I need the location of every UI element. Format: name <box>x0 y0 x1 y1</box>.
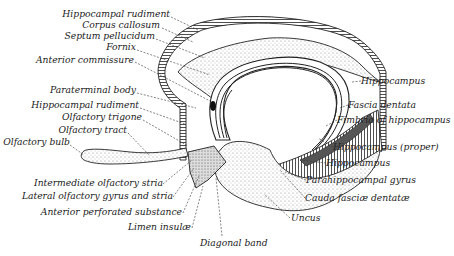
label-diagonal-band: Diagonal band <box>199 237 268 248</box>
label-anterior-commissure: Anterior commissure <box>35 54 135 65</box>
label-olfactory-bulb: Olfactory bulb <box>3 136 70 147</box>
label-septum-pellucidum: Septum pellucidum <box>64 30 155 41</box>
label-uncus: Uncus <box>291 212 321 223</box>
label-olfactory-tract: Olfactory tract <box>58 124 127 135</box>
label-corpus-callosum: Corpus callosum <box>82 19 160 30</box>
label-hippocampal-rudiment: Hippocampal rudiment <box>61 8 170 19</box>
label-parahippocampal-gyrus: Parahippocampal gyrus <box>305 174 416 185</box>
label-paraterminal-body: Paraterminal body <box>49 84 137 95</box>
fornix-hippocampus-arc <box>210 57 349 156</box>
labels-left: Hippocampal rudiment Corpus callosum Sep… <box>3 8 170 147</box>
label-olfactory-trigone: Olfactory trigone <box>62 111 143 122</box>
label-fascia-dentata: Fascia dentata <box>347 99 416 110</box>
septum-pellucidum-region <box>178 38 380 100</box>
label-hippocampus-proper: Hippocampus (proper) <box>332 141 439 152</box>
label-anterior-perforated-substance: Anterior perforated substance <box>40 206 183 217</box>
label-fimbria: Fimbria of hippocampus <box>336 114 451 125</box>
brain-diagram: Hippocampal rudiment Corpus callosum Sep… <box>0 0 454 256</box>
anterior-commissure-dot <box>210 101 216 111</box>
label-cauda-fasciae-dentatae: Cauda fasciæ dentatæ <box>305 192 410 203</box>
olfactory-tract-bulb <box>81 148 188 164</box>
label-fornix: Fornix <box>105 41 137 52</box>
label-limen-insulae: Limen insulæ <box>127 221 191 232</box>
label-hippocampus-upper: Hippocampus <box>360 75 425 86</box>
label-intermediate-olfactory-stria: Intermediate olfactory stria <box>33 177 163 188</box>
label-lateral-olfactory-gyrus: Lateral olfactory gyrus and stria <box>21 190 173 201</box>
label-hippocampal-rudiment-2: Hippocampal rudiment <box>30 99 139 110</box>
label-hippocampus-lower: Hippocampus <box>325 157 390 168</box>
